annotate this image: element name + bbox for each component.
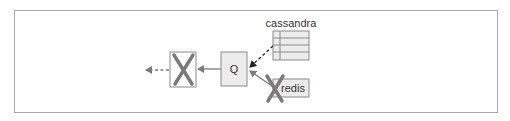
cassandra-label: cassandra: [266, 17, 318, 29]
cassandra-node: cassandra: [266, 17, 318, 60]
queue-label: Q: [230, 63, 239, 75]
queue-node: Q: [221, 52, 247, 86]
diagram-canvas: Q cassandra redis: [0, 0, 510, 121]
redis-node: redis: [267, 76, 309, 101]
cassandra-to-queue-arrow: [250, 46, 273, 67]
redis-label: redis: [281, 82, 305, 94]
removed-consumer-node: [170, 52, 196, 87]
